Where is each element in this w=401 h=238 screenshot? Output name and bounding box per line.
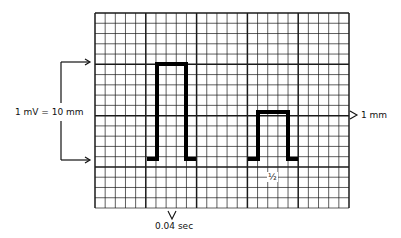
small-box-bracket [350,111,357,119]
half-standard-label: ½ [267,172,278,182]
half-standard-pulse [248,112,298,159]
ecg-calibration-diagram [0,0,401,238]
amplitude-label: 1 mV = 10 mm [15,107,84,117]
full-standard-pulse [147,64,196,159]
time-tick [168,211,176,219]
ecg-grid [95,13,349,208]
small-box-label: 1 mm [361,110,387,120]
calibration-pulses [147,64,298,159]
time-label: 0.04 sec [155,221,193,231]
